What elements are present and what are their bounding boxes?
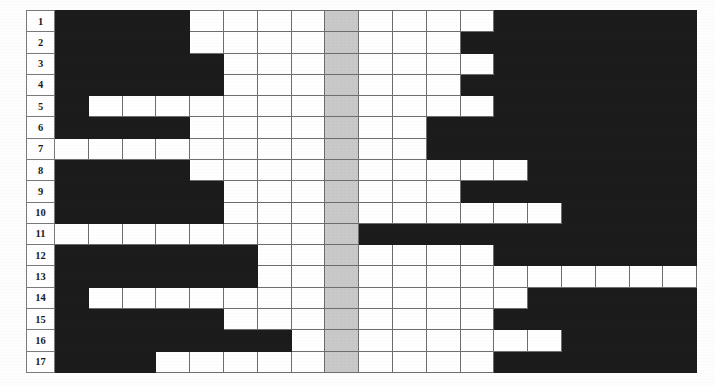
grid-cell [494,351,528,372]
grid-cell [663,351,697,372]
grid-cell [291,202,325,223]
grid-cell [223,223,257,244]
grid-cell [528,32,562,53]
grid-cell [325,11,359,32]
grid-cell [359,308,393,329]
grid-cell [595,138,629,159]
grid-cell [392,351,426,372]
grid-cell [528,223,562,244]
grid-cell [528,96,562,117]
grid-cell [291,245,325,266]
grid-cell [55,202,89,223]
grid-cell [392,32,426,53]
grid-cell [494,308,528,329]
grid-cell [190,223,224,244]
grid-cell [528,159,562,180]
grid-cell [595,351,629,372]
grid-row: 1 [27,11,697,32]
grid-cell [223,32,257,53]
grid-cell [190,287,224,308]
grid-cell [460,159,494,180]
grid-cell [257,117,291,138]
grid-cell [359,159,393,180]
grid-cell [223,351,257,372]
grid-cell [494,181,528,202]
row-label: 7 [27,138,55,159]
grid-cell [528,11,562,32]
grid-cell [595,74,629,95]
row-label: 6 [27,117,55,138]
grid-cell [55,11,89,32]
grid-cell [392,138,426,159]
grid-cell [392,266,426,287]
grid-cell [55,74,89,95]
grid-cell [156,74,190,95]
grid-cell [528,308,562,329]
grid-cell [325,117,359,138]
grid-cell [595,202,629,223]
grid-cell [190,32,224,53]
grid-cell [460,181,494,202]
grid-cell [595,11,629,32]
grid-cell [88,159,122,180]
grid-cell [629,202,663,223]
grid-row: 13 [27,266,697,287]
grid-cell [460,351,494,372]
grid-cell [257,138,291,159]
grid-row: 4 [27,74,697,95]
grid-body: 1234567891011121314151617 [27,11,697,373]
grid-cell [223,181,257,202]
grid-cell [325,308,359,329]
grid-cell [55,245,89,266]
grid-cell [55,32,89,53]
grid-cell [190,181,224,202]
grid-cell [494,330,528,351]
grid-cell [88,11,122,32]
grid-row: 14 [27,287,697,308]
grid-cell [122,351,156,372]
row-label: 8 [27,159,55,180]
grid-cell [426,245,460,266]
grid-row: 6 [27,117,697,138]
grid-cell [663,245,697,266]
grid-cell [291,308,325,329]
grid-cell [359,32,393,53]
grid-cell [359,138,393,159]
grid-cell [392,330,426,351]
grid-row: 17 [27,351,697,372]
grid-cell [595,53,629,74]
grid-cell [494,11,528,32]
row-label: 14 [27,287,55,308]
grid-container: 1234567891011121314151617 [26,10,697,372]
grid-cell [156,202,190,223]
grid-cell [460,223,494,244]
grid-cell [55,117,89,138]
grid-cell [460,53,494,74]
grid-cell [122,96,156,117]
grid-cell [223,308,257,329]
grid-cell [122,223,156,244]
grid-cell [223,159,257,180]
grid-cell [190,266,224,287]
grid-cell [663,138,697,159]
grid-cell [55,287,89,308]
grid-cell [629,223,663,244]
grid-cell [426,11,460,32]
grid-cell [325,32,359,53]
grid-cell [528,53,562,74]
grid-cell [88,74,122,95]
grid-cell [88,138,122,159]
grid-cell [629,74,663,95]
grid-cell [190,53,224,74]
grid-cell [291,266,325,287]
grid-cell [156,181,190,202]
grid-cell [460,96,494,117]
grid-cell [528,117,562,138]
grid-cell [257,159,291,180]
grid-cell [223,96,257,117]
grid-cell [223,117,257,138]
grid-cell [257,308,291,329]
grid-cell [528,181,562,202]
grid-cell [122,53,156,74]
grid-cell [55,330,89,351]
